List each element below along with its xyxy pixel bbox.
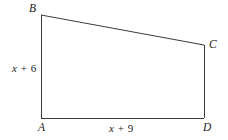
vertex-label-d: D	[203, 122, 212, 134]
side-ab-operator: +	[20, 62, 28, 74]
side-ad-variable: x	[109, 122, 114, 134]
side-ab-variable: x	[12, 62, 17, 74]
side-length-label-ad: x + 9	[109, 123, 134, 134]
vertex-label-a: A	[38, 122, 45, 134]
vertex-label-c: C	[209, 39, 217, 51]
edge-bc	[41, 15, 204, 45]
geometry-figure: B C D A x + 6 x + 9	[0, 0, 228, 140]
side-ab-number: 6	[31, 62, 37, 74]
side-length-label-ab: x + 6	[12, 63, 37, 74]
vertex-label-b: B	[29, 3, 36, 15]
side-ad-operator: +	[117, 122, 125, 134]
side-ad-number: 9	[128, 122, 134, 134]
